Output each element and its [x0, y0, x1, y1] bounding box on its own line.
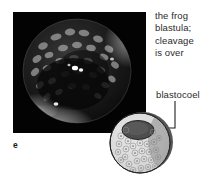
caption-line-1: the frog: [155, 10, 219, 22]
blastula-cutaway-diagram: [109, 110, 175, 176]
caption-line-3: cleavage: [155, 35, 219, 47]
caption-line-4: is over: [155, 47, 219, 59]
caption-line-2: blastula;: [155, 22, 219, 34]
caption-text: the frog blastula; cleavage is over: [155, 10, 219, 59]
figure-letter: e: [13, 140, 18, 150]
figure-panel: the frog blastula; cleavage is over blas…: [0, 0, 220, 190]
